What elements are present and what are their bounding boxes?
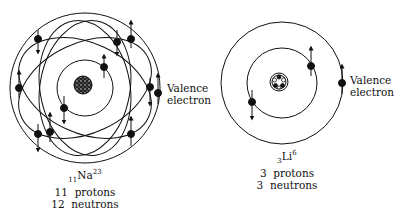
li-valence-line1: Valence (350, 74, 394, 86)
li-symbol: 3Li6 (252, 147, 322, 167)
li-inner-orbit (247, 48, 317, 118)
na-valence-line1: Valence (167, 82, 211, 94)
lithium-atom (221, 22, 343, 144)
li-valence-line2: electron (350, 86, 394, 98)
li-valence-label: Valence electron (350, 74, 394, 98)
sodium-atom (3, 13, 168, 163)
li-neutrons: 3 neutrons (252, 179, 322, 191)
na-protons: 11 protons (40, 186, 130, 198)
na-symbol: 11Na23 (40, 166, 130, 186)
li-caption: 3Li6 3 protons 3 neutrons (252, 147, 322, 191)
na-nucleus (74, 76, 92, 94)
li-electrons (249, 48, 346, 118)
na-neutrons: 12 neutrons (40, 198, 130, 210)
na-valence-label: Valence electron (167, 82, 211, 106)
li-protons: 3 protons (252, 167, 322, 179)
li-outer-orbit (221, 22, 343, 144)
na-caption: 11Na23 11 protons 12 neutrons (40, 166, 130, 210)
na-valence-line2: electron (167, 94, 211, 106)
